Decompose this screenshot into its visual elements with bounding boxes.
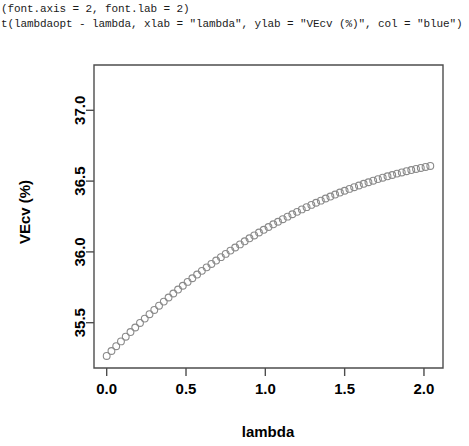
- data-point: [222, 250, 229, 257]
- y-tick-label: 37.0: [72, 96, 89, 125]
- data-point: [213, 257, 220, 264]
- data-point: [203, 264, 210, 271]
- data-point: [208, 261, 215, 268]
- data-point: [365, 179, 372, 186]
- data-point: [198, 267, 205, 274]
- data-point: [384, 173, 391, 180]
- y-tick-label: 35.5: [72, 308, 89, 337]
- y-axis-title: VEcv (%): [16, 180, 33, 244]
- data-point: [179, 282, 186, 289]
- data-point: [375, 176, 382, 183]
- y-axis-ticks: [86, 110, 94, 322]
- chart-plot-area: 35.536.036.537.0 0.00.51.01.52.0 lambda …: [0, 0, 469, 446]
- data-point: [389, 172, 396, 179]
- data-point: [422, 164, 429, 171]
- y-tick-label: 36.0: [72, 237, 89, 266]
- x-tick-label: 1.5: [334, 380, 355, 397]
- data-point-series: [103, 163, 433, 360]
- data-point: [408, 167, 415, 174]
- data-point: [194, 271, 201, 278]
- data-point: [398, 169, 405, 176]
- data-point: [379, 174, 386, 181]
- data-point: [218, 254, 225, 261]
- x-tick-label: 2.0: [414, 380, 435, 397]
- data-point: [403, 168, 410, 175]
- data-point: [370, 177, 377, 184]
- data-point: [413, 166, 420, 173]
- x-tick-label: 0.0: [96, 380, 117, 397]
- x-tick-label: 1.0: [255, 380, 276, 397]
- data-point: [417, 165, 424, 172]
- x-axis-tick-labels: 0.00.51.01.52.0: [96, 380, 434, 397]
- data-point: [189, 275, 196, 282]
- data-point: [184, 279, 191, 286]
- data-point: [427, 163, 434, 170]
- plot-frame: [94, 65, 443, 368]
- x-axis-title: lambda: [242, 423, 295, 440]
- x-axis-ticks: [107, 368, 424, 376]
- y-tick-label: 36.5: [72, 167, 89, 196]
- x-tick-label: 0.5: [176, 380, 197, 397]
- data-point: [394, 170, 401, 177]
- data-point: [175, 286, 182, 293]
- chart-svg: 35.536.036.537.0 0.00.51.01.52.0 lambda …: [0, 0, 469, 446]
- y-axis-tick-labels: 35.536.036.537.0: [72, 96, 89, 338]
